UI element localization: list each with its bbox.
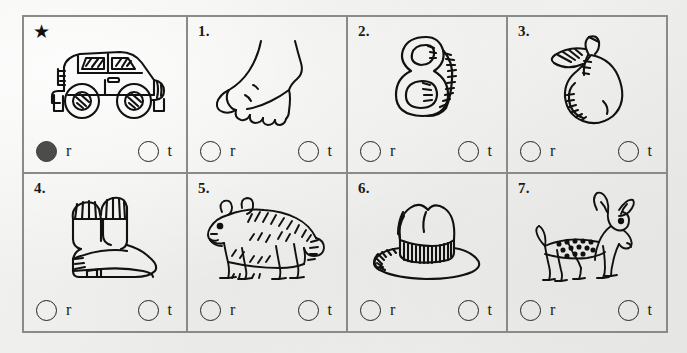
answer-letter-t: t <box>328 301 332 319</box>
picture-eight <box>348 29 506 133</box>
answer-bubble-t[interactable] <box>618 300 639 321</box>
answer-bubble-t[interactable] <box>298 141 319 162</box>
answer-option-r[interactable]: r <box>520 300 555 321</box>
answer-row: r t <box>348 295 506 325</box>
answer-bubble-t[interactable] <box>618 141 639 162</box>
answer-option-r[interactable]: r <box>36 141 71 162</box>
answer-letter-t: t <box>648 142 652 160</box>
answer-letter-t: t <box>488 142 492 160</box>
answer-bubble-r[interactable] <box>36 300 57 321</box>
answer-option-t[interactable]: t <box>618 141 652 162</box>
answer-letter-t: t <box>168 301 172 319</box>
answer-bubble-r[interactable] <box>200 300 221 321</box>
answer-letter-t: t <box>168 142 172 160</box>
answer-letter-t: t <box>648 301 652 319</box>
answer-letter-r: r <box>390 142 395 160</box>
picture-car <box>24 29 186 133</box>
worksheet-grid: ★ <box>22 15 668 333</box>
answer-bubble-r[interactable] <box>200 141 221 162</box>
answer-option-t[interactable]: t <box>298 300 332 321</box>
answer-row: r t <box>508 295 666 325</box>
answer-bubble-t[interactable] <box>138 300 159 321</box>
answer-letter-r: r <box>66 142 71 160</box>
answer-row: r t <box>348 136 506 166</box>
answer-bubble-t[interactable] <box>298 300 319 321</box>
answer-bubble-t[interactable] <box>458 141 479 162</box>
answer-row: r t <box>188 136 346 166</box>
picture-bear <box>188 186 346 290</box>
answer-bubble-r[interactable] <box>360 300 381 321</box>
worksheet-cell-star[interactable]: ★ <box>24 17 188 174</box>
answer-option-r[interactable]: r <box>36 300 71 321</box>
answer-letter-r: r <box>66 301 71 319</box>
answer-option-t[interactable]: t <box>458 300 492 321</box>
answer-bubble-r[interactable] <box>520 141 541 162</box>
worksheet-cell-6[interactable]: 6. r <box>348 174 508 331</box>
answer-row: r t <box>24 136 186 166</box>
answer-letter-r: r <box>390 301 395 319</box>
answer-letter-r: r <box>230 301 235 319</box>
worksheet-cell-7[interactable]: 7. <box>508 174 666 331</box>
picture-hat <box>348 186 506 290</box>
answer-option-r[interactable]: r <box>200 300 235 321</box>
answer-letter-r: r <box>230 142 235 160</box>
answer-bubble-r[interactable] <box>36 141 57 162</box>
answer-bubble-r[interactable] <box>360 141 381 162</box>
answer-option-r[interactable]: r <box>360 141 395 162</box>
answer-letter-t: t <box>488 301 492 319</box>
worksheet-cell-2[interactable]: 2. r t <box>348 17 508 174</box>
answer-letter-t: t <box>328 142 332 160</box>
picture-boot <box>24 186 186 290</box>
picture-deer <box>508 186 666 290</box>
answer-option-t[interactable]: t <box>298 141 332 162</box>
answer-bubble-r[interactable] <box>520 300 541 321</box>
answer-letter-r: r <box>550 142 555 160</box>
answer-option-r[interactable]: r <box>200 141 235 162</box>
answer-row: r t <box>24 295 186 325</box>
answer-option-t[interactable]: t <box>138 300 172 321</box>
picture-foot <box>188 29 346 133</box>
worksheet-cell-3[interactable]: 3. r <box>508 17 666 174</box>
worksheet-cell-4[interactable]: 4. <box>24 174 188 331</box>
answer-option-t[interactable]: t <box>138 141 172 162</box>
picture-pear <box>508 29 666 133</box>
answer-bubble-t[interactable] <box>458 300 479 321</box>
answer-letter-r: r <box>550 301 555 319</box>
answer-row: r t <box>188 295 346 325</box>
answer-option-t[interactable]: t <box>618 300 652 321</box>
worksheet-cell-1[interactable]: 1. <box>188 17 348 174</box>
answer-option-r[interactable]: r <box>520 141 555 162</box>
answer-row: r t <box>508 136 666 166</box>
answer-option-t[interactable]: t <box>458 141 492 162</box>
answer-bubble-t[interactable] <box>138 141 159 162</box>
answer-option-r[interactable]: r <box>360 300 395 321</box>
worksheet-cell-5[interactable]: 5. <box>188 174 348 331</box>
